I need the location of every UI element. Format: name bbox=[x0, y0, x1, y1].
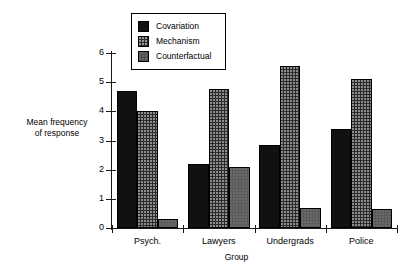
legend-swatch-covariation-icon bbox=[138, 21, 149, 32]
bar-psych-mechanism bbox=[137, 111, 158, 228]
bar-psych-covariation bbox=[117, 91, 138, 228]
legend-item-counterfactual: Counterfactual bbox=[138, 49, 219, 64]
legend: CovariationMechanismCounterfactual bbox=[131, 13, 226, 70]
legend-label-mechanism: Mechanism bbox=[156, 36, 199, 47]
y-axis-title-line-2: of response bbox=[14, 128, 100, 139]
y-tick-label-2: 2 bbox=[88, 165, 104, 174]
x-category-label-1: Lawyers bbox=[183, 236, 254, 246]
x-category-label-0: Psych. bbox=[112, 236, 183, 246]
bar-undergrads-mechanism bbox=[280, 66, 301, 228]
plot-area bbox=[112, 53, 397, 228]
y-axis-title: Mean frequency of response bbox=[14, 117, 100, 139]
bar-undergrads-covariation bbox=[259, 145, 280, 228]
y-tick-label-4: 4 bbox=[88, 106, 104, 115]
legend-swatch-counterfactual-icon bbox=[138, 51, 149, 62]
bar-police-mechanism bbox=[351, 79, 372, 228]
bar-lawyers-counterfactual bbox=[229, 167, 250, 228]
bar-police-covariation bbox=[331, 129, 352, 228]
legend-label-covariation: Covariation bbox=[156, 21, 199, 32]
y-tick-label-6: 6 bbox=[88, 48, 104, 57]
bar-police-counterfactual bbox=[372, 209, 393, 228]
y-tick-label-5: 5 bbox=[88, 77, 104, 86]
legend-item-mechanism: Mechanism bbox=[138, 34, 219, 49]
bar-chart: 0123456 Psych.LawyersUndergradsPolice Me… bbox=[0, 0, 409, 273]
legend-label-counterfactual: Counterfactual bbox=[156, 51, 211, 62]
bar-undergrads-counterfactual bbox=[300, 208, 321, 228]
legend-item-covariation: Covariation bbox=[138, 19, 219, 34]
x-axis-line bbox=[106, 228, 398, 229]
bar-psych-counterfactual bbox=[158, 219, 179, 228]
x-category-label-3: Police bbox=[326, 236, 397, 246]
x-category-label-2: Undergrads bbox=[255, 236, 326, 246]
y-axis-title-line-1: Mean frequency bbox=[14, 117, 100, 128]
legend-swatch-mechanism-icon bbox=[138, 36, 149, 47]
y-tick-label-1: 1 bbox=[88, 194, 104, 203]
y-tick-0 bbox=[106, 228, 116, 229]
y-tick-label-0: 0 bbox=[88, 223, 104, 232]
x-axis-title-text: Group bbox=[225, 252, 249, 262]
bar-lawyers-mechanism bbox=[209, 89, 230, 228]
x-tick-4 bbox=[397, 225, 398, 233]
x-axis-title: Group bbox=[0, 252, 409, 262]
bar-lawyers-covariation bbox=[188, 164, 209, 228]
